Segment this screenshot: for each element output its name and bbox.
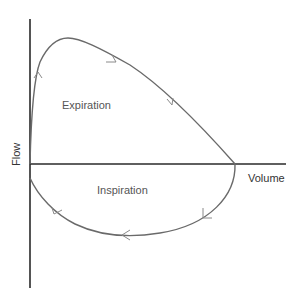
expiration-label: Expiration bbox=[62, 99, 111, 111]
expiration-curve bbox=[30, 38, 235, 164]
inspiration-label: Inspiration bbox=[97, 184, 148, 196]
y-axis-label: Flow bbox=[10, 143, 22, 166]
x-axis-label: Volume bbox=[248, 172, 285, 184]
flow-volume-diagram: Expiration Inspiration Volume Flow bbox=[0, 0, 302, 303]
arrow-expiration-rise-icon bbox=[34, 72, 42, 78]
inspiration-curve bbox=[30, 164, 235, 236]
